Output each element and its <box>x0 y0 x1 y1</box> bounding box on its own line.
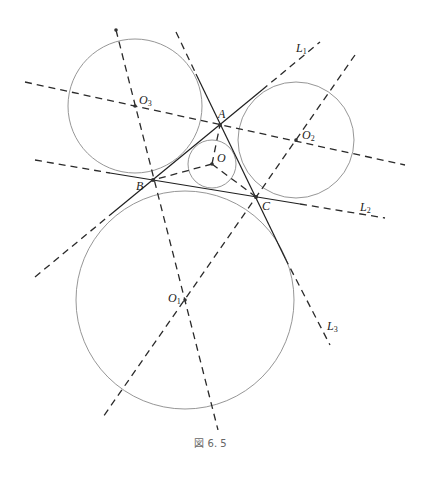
line-L3-dashed-lower <box>285 258 330 345</box>
label-A: A <box>217 107 226 121</box>
line-end-dot <box>114 28 118 32</box>
label-L2: L2 <box>359 200 371 215</box>
point-O1 <box>183 298 187 302</box>
point-O <box>210 162 214 166</box>
line-L3-dashed-upper <box>176 32 196 74</box>
segment-o-c <box>212 164 256 197</box>
point-O3 <box>133 104 137 108</box>
line-o3-a-o2 <box>25 82 405 165</box>
label-O1: O1 <box>168 291 181 306</box>
line-L3-solid <box>196 74 285 258</box>
label-O3: O3 <box>139 93 152 108</box>
label-L1: L1 <box>295 41 307 56</box>
line-o3-b-o1 <box>116 30 218 430</box>
point-C <box>254 195 258 199</box>
line-o2-c-o1 <box>103 55 355 417</box>
label-C: C <box>262 199 271 213</box>
point-O2 <box>294 138 298 142</box>
label-L3: L3 <box>326 319 338 334</box>
label-B: B <box>136 179 144 193</box>
line-L1-dashed-lower <box>35 215 110 277</box>
geometry-figure: A B C O O1 O2 O3 L1 L2 L3 <box>0 0 421 430</box>
line-L2-dashed-right <box>300 204 385 218</box>
figure-caption: 図 6. 5 <box>0 435 421 450</box>
point-A <box>218 123 222 127</box>
line-L1-dashed-upper <box>262 42 320 90</box>
point-B <box>151 178 155 182</box>
label-O2: O2 <box>302 128 315 143</box>
label-O: O <box>217 151 226 165</box>
